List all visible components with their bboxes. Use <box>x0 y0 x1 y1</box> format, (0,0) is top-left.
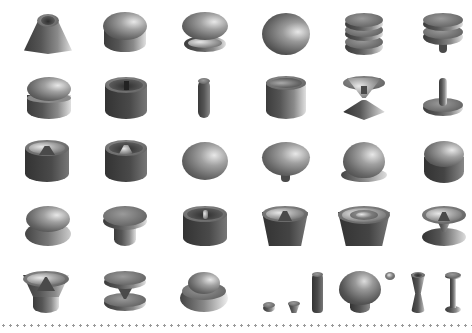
shape-part <box>312 274 323 313</box>
shape-tiny-bowl <box>385 272 395 280</box>
shape-part <box>356 212 372 218</box>
shape-spindle-discs <box>104 271 146 313</box>
shape-part <box>312 272 323 277</box>
shape-spool <box>445 272 461 313</box>
shape-bowl-on-cone <box>422 206 466 246</box>
shape-part <box>414 273 422 277</box>
shape-dome-stem <box>262 142 310 184</box>
shape-torus-cylinder <box>27 77 71 119</box>
shape-rod <box>198 78 210 118</box>
shape-hourglass-spool <box>411 272 425 313</box>
shape-part <box>424 141 464 167</box>
shape-hollow-cylinder <box>266 76 306 119</box>
shape-part <box>439 78 447 106</box>
shape-part <box>361 86 367 94</box>
shape-double-dome <box>103 12 147 54</box>
shape-part <box>339 271 381 305</box>
shape-part <box>103 12 147 40</box>
shape-pin-disc <box>423 78 463 118</box>
dotted-divider <box>0 324 472 327</box>
shape-part <box>198 80 210 118</box>
shape-part <box>343 142 385 178</box>
shape-part <box>104 271 146 285</box>
shape-part <box>411 274 425 313</box>
shape-part <box>270 78 302 88</box>
shape-tall-rod <box>312 272 323 313</box>
shape-torus-ring <box>180 272 228 312</box>
shape-part <box>423 13 463 27</box>
shape-part <box>124 81 129 90</box>
shape-part <box>188 272 220 294</box>
shape-torus-double <box>25 206 71 246</box>
shape-part <box>263 302 275 308</box>
shape-triple-disc <box>345 13 383 57</box>
shape-part <box>343 100 385 120</box>
shape-cone-recess <box>24 12 72 56</box>
shape-part <box>103 206 147 226</box>
shape-flared-cup <box>23 271 69 313</box>
shape-mushroom-knob <box>339 271 381 313</box>
shape-cup-cone-a <box>25 140 69 182</box>
shape-dome-flat <box>182 142 228 180</box>
shape-part <box>262 142 310 176</box>
shape-mushroom-disc <box>103 206 147 246</box>
shape-small-cone <box>288 301 300 313</box>
shape-cup-cone-b <box>105 140 147 182</box>
shape-double-dome-b <box>424 141 464 183</box>
shape-part <box>27 77 71 101</box>
shape-cup-pin-b <box>183 206 227 246</box>
shape-small-puck <box>263 302 275 312</box>
shape-part <box>262 13 310 55</box>
shape-part <box>182 12 228 40</box>
shape-part <box>41 16 55 25</box>
shape-bowl-cone <box>262 206 308 246</box>
shape-part <box>387 273 393 278</box>
shape-cup-cone <box>343 76 385 120</box>
shape-torus-dish <box>182 12 228 54</box>
shape-part <box>450 276 456 308</box>
shape-part <box>182 142 228 180</box>
shape-part <box>203 210 208 219</box>
shape-part <box>26 206 70 232</box>
shape-part <box>345 13 383 27</box>
shape-part <box>288 301 300 306</box>
shape-part <box>198 78 210 84</box>
shape-double-disc-stem <box>423 13 463 55</box>
shape-dome <box>262 13 310 55</box>
shape-dome-rim <box>341 142 387 182</box>
shape-bowl-rings <box>338 206 390 246</box>
shape-cup-pin <box>105 77 147 119</box>
shape-part <box>445 272 461 278</box>
